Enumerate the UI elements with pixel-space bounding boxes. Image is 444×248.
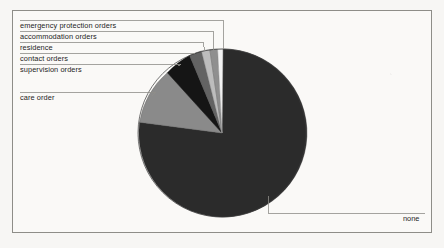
leader-line-none <box>268 196 425 213</box>
pie-label-contact-orders: contact orders <box>20 54 68 63</box>
pie-label-accommodation-orders: accommodation orders <box>20 32 97 41</box>
pie-label-none: none <box>403 214 419 223</box>
pie-label-residence: residence <box>20 43 53 52</box>
pie-label-supervision-orders: supervision orders <box>20 65 82 74</box>
pie-label-emergency-protection-orders: emergency protection orders <box>20 21 116 30</box>
pie-label-care-order: care order <box>20 93 54 102</box>
figure-canvas: emergency protection orders accommodatio… <box>0 0 444 248</box>
